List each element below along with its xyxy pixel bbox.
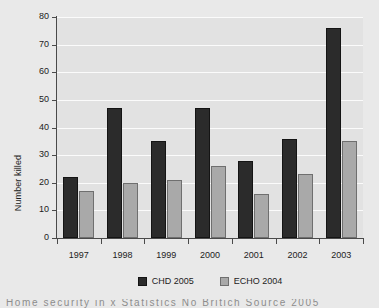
- y-axis-tick: [52, 45, 57, 46]
- y-axis-tick-label: 80: [23, 12, 49, 21]
- x-axis-tick-label: 1998: [101, 250, 145, 260]
- bar-2002-echo-2004[interactable]: [298, 174, 313, 238]
- legend-swatch-icon: [220, 277, 229, 286]
- x-axis-tick: [144, 239, 145, 244]
- x-axis-tick-label: 2003: [319, 250, 363, 260]
- x-axis-tick-label: 2001: [232, 250, 276, 260]
- bar-2002-chd-2005[interactable]: [282, 139, 297, 238]
- bar-group-1999: [144, 17, 188, 238]
- bar-group-2000: [188, 17, 232, 238]
- y-axis-tick-label: 10: [23, 205, 49, 214]
- bar-1998-chd-2005[interactable]: [107, 108, 122, 238]
- legend-label: CHD 2005: [152, 276, 194, 286]
- bar-chart-figure: Number killed 01020304050607080 19971998…: [0, 0, 379, 308]
- plot-area: [57, 17, 363, 238]
- x-axis-tick: [363, 239, 364, 244]
- y-axis-tick-label: 20: [23, 178, 49, 187]
- x-axis-tick: [57, 239, 58, 244]
- bar-1997-chd-2005[interactable]: [63, 177, 78, 238]
- bar-2003-chd-2005[interactable]: [326, 28, 341, 238]
- caption-strip: Home security in x Statistics No Britich…: [0, 299, 379, 308]
- x-axis-tick-label: 1997: [57, 250, 101, 260]
- bar-2001-chd-2005[interactable]: [238, 161, 253, 238]
- bar-group-2001: [232, 17, 276, 238]
- x-axis-tick: [188, 239, 189, 244]
- y-axis-tick-label: 50: [23, 95, 49, 104]
- y-axis-tick: [52, 72, 57, 73]
- x-axis-tick: [319, 239, 320, 244]
- bar-1999-chd-2005[interactable]: [151, 141, 166, 238]
- bar-1998-echo-2004[interactable]: [123, 183, 138, 238]
- x-axis-tick-label: 2000: [188, 250, 232, 260]
- legend-label: ECHO 2004: [234, 276, 283, 286]
- bar-1997-echo-2004[interactable]: [79, 191, 94, 238]
- bars-layer: [57, 17, 363, 238]
- x-axis-line: [56, 238, 364, 239]
- bar-2003-echo-2004[interactable]: [342, 141, 357, 238]
- bar-group-1998: [101, 17, 145, 238]
- x-axis-tick-label: 1999: [144, 250, 188, 260]
- y-axis-tick-label: 0: [23, 233, 49, 242]
- bar-2000-echo-2004[interactable]: [211, 166, 226, 238]
- y-axis-tick: [52, 155, 57, 156]
- x-axis-tick: [276, 239, 277, 244]
- y-axis-tick-label: 40: [23, 123, 49, 132]
- y-axis-tick: [52, 17, 57, 18]
- bar-2000-chd-2005[interactable]: [195, 108, 210, 238]
- bar-2001-echo-2004[interactable]: [254, 194, 269, 238]
- bar-1999-echo-2004[interactable]: [167, 180, 182, 238]
- bar-group-1997: [57, 17, 101, 238]
- x-axis-tick-labels: 1997199819992000200120022003: [57, 250, 363, 260]
- x-axis-tick-label: 2002: [276, 250, 320, 260]
- x-axis-tick: [101, 239, 102, 244]
- legend-item-chd-2005[interactable]: CHD 2005: [138, 276, 194, 286]
- y-axis-tick: [52, 100, 57, 101]
- y-axis-title: Number killed: [13, 138, 23, 228]
- y-axis-tick: [52, 128, 57, 129]
- bar-group-2003: [319, 17, 363, 238]
- y-axis-tick-label: 60: [23, 67, 49, 76]
- chart-legend: CHD 2005ECHO 2004: [57, 276, 363, 286]
- caption-text: Home security in x Statistics No Britich…: [6, 299, 320, 308]
- y-axis-tick: [52, 210, 57, 211]
- legend-item-echo-2004[interactable]: ECHO 2004: [220, 276, 283, 286]
- x-axis-tick: [232, 239, 233, 244]
- y-axis-tick-label: 70: [23, 40, 49, 49]
- y-axis-tick-label: 30: [23, 150, 49, 159]
- legend-swatch-icon: [138, 277, 147, 286]
- y-axis-tick: [52, 183, 57, 184]
- bar-group-2002: [276, 17, 320, 238]
